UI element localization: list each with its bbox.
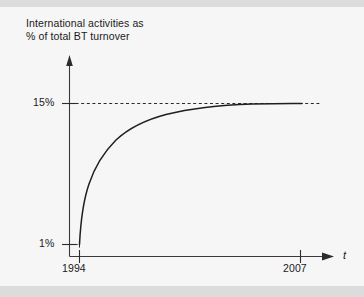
x-tick-label-2007: 2007 bbox=[283, 262, 307, 274]
y-tick-label-15-percent: 15% bbox=[33, 96, 54, 108]
growth-curve bbox=[80, 103, 303, 244]
x-tick-label-1994: 1994 bbox=[62, 262, 86, 274]
chart-figure: International activities as % of total B… bbox=[0, 0, 364, 297]
start-point-guides bbox=[70, 245, 80, 257]
y-axis bbox=[66, 55, 73, 257]
x-axis-variable-label: t bbox=[343, 249, 346, 261]
chart-plot-area bbox=[0, 0, 364, 297]
x-axis bbox=[70, 252, 335, 260]
y-tick-label-1-percent: 1% bbox=[39, 237, 54, 249]
